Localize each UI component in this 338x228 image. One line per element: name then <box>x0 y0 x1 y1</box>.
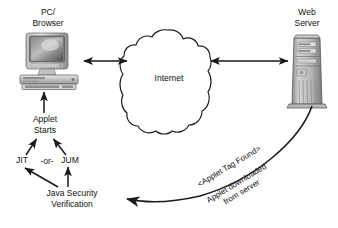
label-internet: Internet <box>139 73 199 84</box>
label-jum: JUM <box>57 155 83 166</box>
server-tower-icon <box>287 35 327 108</box>
desktop-computer-icon <box>20 33 78 90</box>
label-or: -or- <box>35 156 59 167</box>
label-web-server: Web Server <box>277 7 337 28</box>
label-pc-browser: PC/ Browser <box>18 7 78 28</box>
edge-jit-to-applet-starts <box>26 139 37 155</box>
edge-jum-to-applet-starts <box>54 139 67 155</box>
label-applet-starts: Applet Starts <box>16 114 74 135</box>
label-java-security-verification: Java Security Verification <box>28 188 116 209</box>
label-jit: JIT <box>10 155 34 166</box>
edge-security-to-jit <box>25 168 58 187</box>
diagram-canvas: PC/ Browser Internet Web Server Applet S… <box>0 0 338 228</box>
